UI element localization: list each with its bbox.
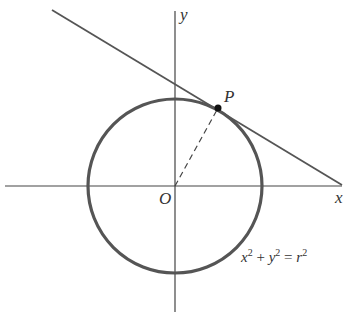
tangent-line bbox=[52, 10, 342, 185]
diagram-canvas bbox=[0, 0, 346, 312]
origin-label: O bbox=[159, 190, 171, 207]
point-label: P bbox=[224, 88, 234, 105]
point-p bbox=[215, 105, 222, 112]
radius-dashed bbox=[175, 108, 218, 186]
y-axis-label: y bbox=[180, 6, 188, 23]
diagram: y x O P x2 + y2 = r2 bbox=[0, 0, 346, 312]
circle-equation: x2 + y2 = r2 bbox=[241, 248, 307, 265]
x-axis-label: x bbox=[335, 189, 343, 206]
